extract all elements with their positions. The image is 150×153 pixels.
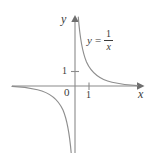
y-axis-tick-label-1: 1	[62, 66, 67, 76]
y-axis-label: y	[61, 13, 66, 25]
equation-equals-sign: =	[95, 35, 101, 46]
function-graph-figure: y x 0 1 1 y = 1 x	[0, 0, 150, 153]
equation-annotation: y = 1 x	[87, 29, 113, 52]
x-axis-label: x	[138, 88, 143, 100]
curve-branch-quadrant-3	[12, 86, 71, 153]
equation-numerator: 1	[104, 29, 113, 40]
equation-lhs: y	[87, 35, 92, 46]
equation-fraction: 1 x	[104, 29, 113, 52]
graph-canvas	[0, 0, 150, 153]
origin-label: 0	[64, 87, 70, 98]
equation-denominator: x	[104, 41, 112, 52]
x-axis-tick-label-1: 1	[86, 90, 91, 100]
y-axis-arrowhead	[71, 15, 78, 22]
